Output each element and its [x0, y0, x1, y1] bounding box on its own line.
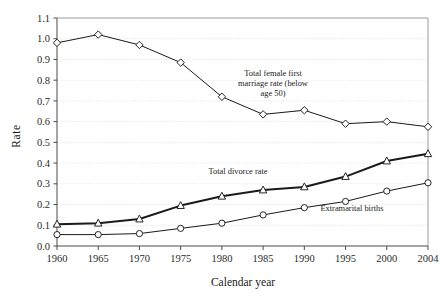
data-point-circle — [95, 232, 101, 238]
x-axis-tick-label: 1960 — [47, 253, 68, 264]
annotation-births: Extramarital births — [320, 204, 383, 213]
y-axis-tick-label: 1.1 — [37, 13, 50, 24]
data-point-circle — [178, 225, 184, 231]
annotation-line: marriage rate (below — [238, 79, 309, 88]
y-axis-tick-label: 0.3 — [37, 178, 50, 189]
rate-trends-line-chart: 0.00.10.20.30.40.50.60.70.80.91.01.1 196… — [0, 0, 447, 298]
data-point-circle — [425, 180, 431, 186]
x-axis-tick-label: 1965 — [88, 253, 109, 264]
x-axis-tick-label: 1970 — [129, 253, 150, 264]
y-axis-tick-label: 1.0 — [37, 33, 50, 44]
y-axis-title: Rate — [10, 124, 22, 147]
data-point-circle — [54, 232, 60, 238]
y-axis-tick-label: 0.8 — [37, 75, 50, 86]
x-axis-tick-label: 2004 — [418, 253, 440, 264]
data-point-circle — [219, 220, 225, 226]
y-axis-tick-label: 0.6 — [37, 116, 50, 127]
x-axis-tick-label: 2000 — [376, 253, 397, 264]
y-axis-tick-label: 0.9 — [37, 54, 50, 65]
x-axis-tick-label: 1980 — [211, 253, 232, 264]
data-point-circle — [136, 230, 142, 236]
y-axis-tick-label: 0.2 — [37, 199, 50, 210]
data-point-circle — [384, 188, 390, 194]
y-axis-tick-label: 0.1 — [37, 220, 50, 231]
x-axis-title: Calendar year — [211, 276, 275, 289]
y-axis-tick-label: 0.7 — [37, 96, 50, 107]
y-axis-tick-label: 0.0 — [37, 241, 50, 252]
data-point-circle — [301, 205, 307, 211]
x-axis-tick-label: 1985 — [253, 253, 274, 264]
annotation-line: age 50) — [261, 89, 286, 98]
annotation-line: Total female first — [244, 69, 302, 78]
data-point-circle — [260, 212, 266, 218]
y-axis-tick-label: 0.4 — [37, 158, 51, 169]
annotation-line: Total divorce rate — [209, 167, 268, 176]
chart-figure: 0.00.10.20.30.40.50.60.70.80.91.01.1 196… — [0, 0, 447, 298]
x-axis-tick-label: 1975 — [170, 253, 191, 264]
x-axis-tick-label: 1995 — [335, 253, 356, 264]
annotation-divorce: Total divorce rate — [209, 167, 268, 176]
x-axis-tick-label: 1990 — [294, 253, 315, 264]
y-axis-tick-label: 0.5 — [37, 137, 50, 148]
annotation-line: Extramarital births — [320, 204, 383, 213]
